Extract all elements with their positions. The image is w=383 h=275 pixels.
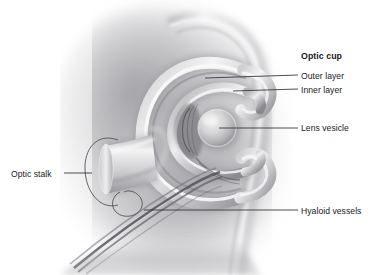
label-inner-layer: Inner layer xyxy=(301,85,342,95)
label-optic-stalk: Optic stalk xyxy=(11,169,52,179)
eye-development-illustration xyxy=(0,0,383,275)
lens-vesicle xyxy=(196,108,240,150)
figure-canvas: Optic cup Outer layer Inner layer Lens v… xyxy=(0,0,383,275)
label-lens-vesicle: Lens vesicle xyxy=(301,123,349,133)
label-hyaloid-vessels: Hyaloid vessels xyxy=(301,206,361,216)
label-outer-layer: Outer layer xyxy=(301,71,344,81)
label-optic-cup: Optic cup xyxy=(301,51,342,61)
